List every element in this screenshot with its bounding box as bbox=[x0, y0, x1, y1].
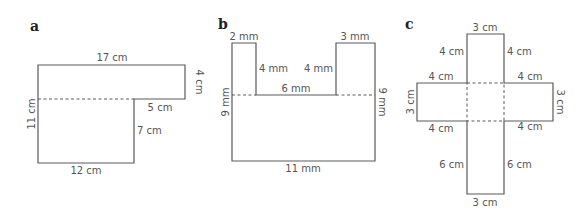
label-top-arm-left: 4 cm bbox=[439, 46, 464, 57]
label-left-tab-top: 2 mm bbox=[229, 31, 258, 42]
label-inner-right: 7 cm bbox=[137, 125, 162, 136]
label-right-arm-end: 3 cm bbox=[555, 90, 566, 115]
label-left-arm-bottom: 4 cm bbox=[429, 123, 454, 134]
label-right-arm-bottom: 4 cm bbox=[518, 121, 543, 132]
label-step: 5 cm bbox=[148, 102, 173, 113]
label-right-tab-inner: 4 mm bbox=[304, 63, 333, 74]
u-shape-outline bbox=[232, 43, 375, 161]
cross-shape-outline bbox=[417, 34, 553, 194]
label-right-arm-top: 4 cm bbox=[518, 71, 543, 82]
figure-a: a 17 cm 4 cm 5 cm 7 cm 12 cm 11 cm bbox=[26, 18, 205, 176]
label-bottom-arm-left: 6 cm bbox=[439, 159, 464, 170]
figure-c: c 3 cm 4 cm 4 cm 4 cm 4 cm 3 cm 3 cm 4 c… bbox=[405, 16, 566, 208]
label-bottom: 3 cm bbox=[473, 197, 498, 208]
l-shape-outline bbox=[38, 65, 185, 163]
label-left: 11 cm bbox=[26, 98, 37, 129]
figure-b: b 2 mm 3 mm 4 mm 4 mm 6 mm 9 mm 9 mm 11 … bbox=[218, 16, 388, 174]
label-top: 17 cm bbox=[96, 52, 127, 63]
label-bottom: 12 cm bbox=[70, 165, 101, 176]
panel-label-a: a bbox=[30, 18, 39, 34]
label-left-arm-top: 4 cm bbox=[429, 71, 454, 82]
label-bottom-arm-right: 6 cm bbox=[507, 159, 532, 170]
label-bottom: 11 mm bbox=[285, 163, 320, 174]
panel-label-b: b bbox=[218, 16, 228, 32]
label-left: 9 mm bbox=[220, 87, 231, 116]
panel-label-c: c bbox=[405, 16, 414, 32]
dashed-center-square bbox=[467, 83, 504, 121]
label-left-tab-inner: 4 mm bbox=[259, 63, 288, 74]
label-top-arm-right: 4 cm bbox=[507, 46, 532, 57]
label-top: 3 cm bbox=[473, 22, 498, 33]
label-left-arm-end: 3 cm bbox=[405, 90, 416, 115]
composite-shapes-diagram: a 17 cm 4 cm 5 cm 7 cm 12 cm 11 cm b 2 m… bbox=[0, 0, 588, 213]
label-right-tab-top: 3 mm bbox=[340, 31, 369, 42]
label-right: 9 mm bbox=[377, 87, 388, 116]
label-right: 4 cm bbox=[194, 70, 205, 95]
label-gap: 6 mm bbox=[281, 83, 310, 94]
